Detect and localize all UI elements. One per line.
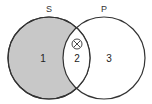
venn-diagram: S P 1 2 3 xyxy=(0,0,152,104)
label-s: S xyxy=(46,4,52,14)
region-2-label: 2 xyxy=(74,53,80,64)
region-1-label: 1 xyxy=(40,53,46,64)
region-3-label: 3 xyxy=(106,53,112,64)
label-p: P xyxy=(101,4,107,14)
